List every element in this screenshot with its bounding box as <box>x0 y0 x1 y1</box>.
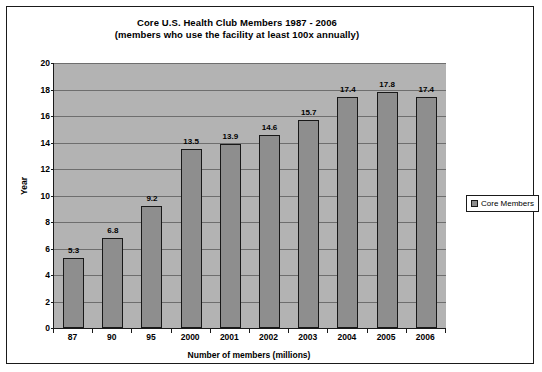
chart-subtitle: (members who use the facility at least 1… <box>7 29 467 41</box>
x-axis-tick-label: 2005 <box>367 332 405 342</box>
bar-slot: 17.4 <box>407 63 445 328</box>
x-axis-title: Number of members (millions) <box>53 350 445 360</box>
bar-slot: 13.5 <box>172 63 210 328</box>
x-axis-tick-label: 2000 <box>171 332 209 342</box>
y-axis-tick-label: 0 <box>45 323 50 333</box>
y-axis-tick-label: 6 <box>45 244 50 254</box>
x-axis-tick-labels: 8790952000200120022003200420052006 <box>53 332 445 342</box>
y-axis-tick-label: 16 <box>41 111 50 121</box>
y-axis-tick-label: 12 <box>41 164 50 174</box>
bar-series: 5.36.89.213.513.914.615.717.417.817.4 <box>54 63 446 328</box>
bar[interactable]: 13.5 <box>181 149 202 328</box>
y-axis-tick-label: 4 <box>45 270 50 280</box>
y-axis-tick-label: 18 <box>41 85 50 95</box>
bar-value-label: 17.4 <box>340 85 356 94</box>
bar-value-label: 13.9 <box>223 132 239 141</box>
bar[interactable]: 17.4 <box>337 97 358 328</box>
x-axis-tick-label: 90 <box>93 332 131 342</box>
x-axis-tick-label: 2002 <box>250 332 288 342</box>
bar-slot: 13.9 <box>212 63 250 328</box>
bar[interactable]: 17.8 <box>377 92 398 328</box>
bar-value-label: 13.5 <box>183 137 199 146</box>
y-axis-tick-label: 2 <box>45 297 50 307</box>
bar-slot: 17.8 <box>368 63 406 328</box>
x-axis-tick-label: 87 <box>54 332 92 342</box>
bar[interactable]: 17.4 <box>416 97 437 328</box>
bar-value-label: 5.3 <box>68 246 79 255</box>
chart-title: Core U.S. Health Club Members 1987 - 200… <box>7 17 467 41</box>
x-axis-tick-label: 2003 <box>289 332 327 342</box>
y-axis-tick-label: 8 <box>45 217 50 227</box>
bar-slot: 6.8 <box>94 63 132 328</box>
x-axis-tick-label: 95 <box>132 332 170 342</box>
bar-slot: 9.2 <box>133 63 171 328</box>
bar[interactable]: 14.6 <box>259 135 280 328</box>
plot-area: 02468101214161820 5.36.89.213.513.914.61… <box>53 63 446 329</box>
y-axis-tick-label: 20 <box>41 58 50 68</box>
y-axis-tick-label: 10 <box>41 191 50 201</box>
x-axis-tick-label: 2006 <box>406 332 444 342</box>
chart-frame: Core U.S. Health Club Members 1987 - 200… <box>6 6 534 364</box>
bar-value-label: 15.7 <box>301 108 317 117</box>
bar-value-label: 6.8 <box>107 226 118 235</box>
chart-title-main: Core U.S. Health Club Members 1987 - 200… <box>137 17 337 28</box>
legend: Core Members <box>466 195 539 212</box>
legend-label-core-members: Core Members <box>481 199 534 208</box>
y-axis-title: Year <box>19 177 29 195</box>
bar[interactable]: 5.3 <box>63 258 84 328</box>
bar-slot: 5.3 <box>55 63 93 328</box>
bar-value-label: 14.6 <box>262 123 278 132</box>
bar-value-label: 9.2 <box>146 194 157 203</box>
bar[interactable]: 13.9 <box>220 144 241 328</box>
bar-value-label: 17.8 <box>379 80 395 89</box>
legend-swatch-core-members <box>471 200 478 207</box>
x-axis-tick-mark <box>445 329 446 333</box>
y-axis-tick-label: 14 <box>41 138 50 148</box>
bar[interactable]: 15.7 <box>298 120 319 328</box>
x-axis-tick-label: 2001 <box>211 332 249 342</box>
bar-slot: 15.7 <box>290 63 328 328</box>
bar[interactable]: 6.8 <box>102 238 123 328</box>
bar[interactable]: 9.2 <box>141 206 162 328</box>
bar-value-label: 17.4 <box>418 85 434 94</box>
bar-slot: 17.4 <box>329 63 367 328</box>
x-axis-tick-label: 2004 <box>328 332 366 342</box>
bar-slot: 14.6 <box>251 63 289 328</box>
